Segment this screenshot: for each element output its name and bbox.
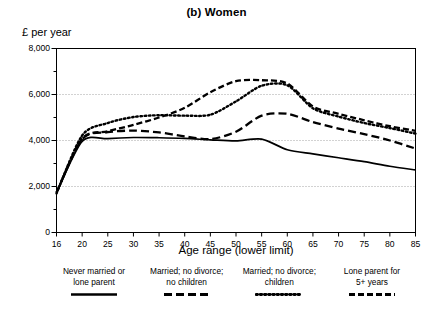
series-line	[57, 113, 416, 192]
legend-entry: Married; no divorce;no children	[141, 266, 233, 294]
legend-label-line1: Lone parent for	[326, 266, 418, 277]
legend-label-line2: lone parent	[48, 277, 140, 288]
legend-label-line2: children	[233, 277, 325, 288]
legend-label-line1: Married; no divorce;	[141, 266, 233, 277]
y-tick-label: 6,000	[16, 89, 50, 99]
y-tick-label: 4,000	[16, 135, 50, 145]
legend-label-line2: no children	[141, 277, 233, 288]
chart-figure: (b) Women £ per year 02,0004,0006,0008,0…	[0, 0, 433, 313]
y-tick-label: 8,000	[16, 43, 50, 53]
legend-line-swatch	[255, 289, 303, 294]
x-axis-label: Age range (lower limit)	[56, 244, 416, 256]
legend-line-swatch	[70, 289, 118, 294]
y-axis-ticks	[52, 49, 57, 233]
x-axis-ticks	[57, 233, 416, 237]
legend-entry: Never married orlone parent	[48, 266, 140, 294]
legend-line-swatch	[163, 289, 211, 294]
chart-legend: Never married orlone parentMarried; no d…	[48, 266, 418, 294]
legend-label-line1: Married; no divorce;	[233, 266, 325, 277]
series-line	[57, 137, 416, 193]
legend-label-line1: Never married or	[48, 266, 140, 277]
legend-label-line2: 5+ years	[326, 277, 418, 288]
legend-entry: Lone parent for5+ years	[326, 266, 418, 294]
legend-entry: Married; no divorce;children	[233, 266, 325, 294]
legend-line-swatch	[348, 289, 396, 294]
data-series-group	[57, 80, 416, 193]
series-line	[57, 80, 416, 193]
y-tick-label: 0	[16, 227, 50, 237]
y-tick-label: 2,000	[16, 181, 50, 191]
